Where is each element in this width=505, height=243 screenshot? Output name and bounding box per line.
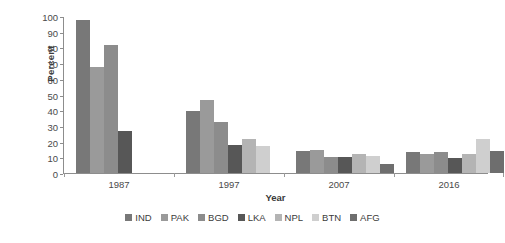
bar bbox=[214, 122, 228, 173]
legend-label: AFG bbox=[360, 212, 380, 223]
bar bbox=[462, 154, 476, 173]
x-axis-line bbox=[63, 173, 488, 174]
bar bbox=[186, 111, 200, 173]
legend-swatch-icon bbox=[275, 214, 282, 221]
bar-group: 1987 bbox=[64, 17, 174, 173]
bar bbox=[324, 157, 338, 173]
legend-label: BTN bbox=[322, 212, 341, 223]
bar bbox=[338, 157, 352, 173]
bar-group: 2007 bbox=[284, 17, 394, 173]
x-axis-title: Year bbox=[63, 192, 488, 203]
bar bbox=[490, 151, 504, 173]
bar-chart: Percent 0 10 20 30 40 50 60 70 80 90 100 bbox=[0, 0, 505, 243]
bar bbox=[352, 154, 366, 173]
bar bbox=[476, 139, 490, 173]
bar bbox=[296, 151, 310, 173]
x-axis-divider bbox=[64, 173, 65, 177]
legend-label: NPL bbox=[285, 212, 303, 223]
x-tick-label: 1987 bbox=[64, 179, 174, 190]
bar bbox=[310, 150, 324, 173]
x-axis-divider bbox=[394, 173, 395, 177]
bar bbox=[366, 156, 380, 173]
legend-swatch-icon bbox=[238, 214, 245, 221]
legend-swatch-icon bbox=[125, 214, 132, 221]
bar bbox=[118, 131, 132, 173]
x-axis-divider bbox=[174, 173, 175, 177]
legend-label: LKA bbox=[248, 212, 266, 223]
bar bbox=[420, 154, 434, 173]
y-tick-mark bbox=[60, 17, 63, 18]
y-tick-mark bbox=[60, 127, 63, 128]
bar bbox=[242, 139, 256, 173]
y-tick-mark bbox=[60, 174, 63, 175]
bar bbox=[228, 145, 242, 173]
legend-label: BGD bbox=[208, 212, 229, 223]
x-axis-divider bbox=[284, 173, 285, 177]
bar bbox=[256, 146, 270, 173]
bar bbox=[448, 158, 462, 173]
legend-swatch-icon bbox=[161, 214, 168, 221]
y-tick-mark bbox=[60, 33, 63, 34]
legend-item-npl[interactable]: NPL bbox=[275, 212, 303, 223]
legend-swatch-icon bbox=[312, 214, 319, 221]
legend-swatch-icon bbox=[350, 214, 357, 221]
legend-item-btn[interactable]: BTN bbox=[312, 212, 341, 223]
y-tick-mark bbox=[60, 64, 63, 65]
y-tick-mark bbox=[60, 80, 63, 81]
y-tick-mark bbox=[60, 96, 63, 97]
legend-swatch-icon bbox=[198, 214, 205, 221]
legend-item-lka[interactable]: LKA bbox=[238, 212, 266, 223]
y-tick-mark bbox=[60, 111, 63, 112]
bar bbox=[76, 20, 90, 173]
legend-label: PAK bbox=[171, 212, 189, 223]
y-tick-mark bbox=[60, 48, 63, 49]
bar bbox=[200, 100, 214, 173]
legend-item-pak[interactable]: PAK bbox=[161, 212, 189, 223]
x-tick-label: 1997 bbox=[174, 179, 284, 190]
bar bbox=[90, 67, 104, 173]
y-tick-mark bbox=[60, 143, 63, 144]
bar-groups: 1987199720072016 bbox=[64, 17, 488, 173]
legend-item-bgd[interactable]: BGD bbox=[198, 212, 229, 223]
legend-label: IND bbox=[135, 212, 151, 223]
bar-group: 2016 bbox=[394, 17, 504, 173]
chart-legend: INDPAKBGDLKANPLBTNAFG bbox=[0, 212, 505, 223]
legend-item-afg[interactable]: AFG bbox=[350, 212, 380, 223]
bar bbox=[434, 152, 448, 173]
bar-group: 1997 bbox=[174, 17, 284, 173]
x-axis-divider bbox=[503, 173, 504, 177]
legend-item-ind[interactable]: IND bbox=[125, 212, 151, 223]
y-tick-mark bbox=[60, 158, 63, 159]
x-tick-label: 2016 bbox=[394, 179, 504, 190]
bar bbox=[380, 164, 394, 173]
x-tick-label: 2007 bbox=[284, 179, 394, 190]
bar bbox=[406, 152, 420, 173]
plot-area: 0 10 20 30 40 50 60 70 80 90 100 1987199… bbox=[63, 17, 488, 174]
bar bbox=[104, 45, 118, 173]
